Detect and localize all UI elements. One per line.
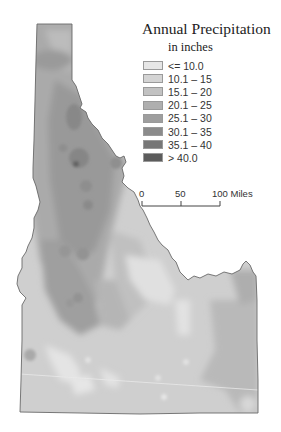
legend-item: 20.1 – 25 — [143, 99, 212, 112]
legend-swatch — [143, 74, 163, 83]
scale-tick-0: 0 — [139, 188, 144, 199]
legend-item: 30.1 – 35 — [143, 125, 212, 138]
map-subtitle: in inches — [168, 40, 213, 55]
legend-swatch — [143, 140, 163, 149]
legend-item: > 40.0 — [143, 151, 212, 164]
legend-label: > 40.0 — [168, 152, 198, 164]
scale-bar — [142, 201, 220, 206]
legend: <= 10.0 10.1 – 15 15.1 – 20 20.1 – 25 25… — [143, 59, 212, 165]
legend-swatch — [143, 153, 163, 162]
legend-swatch — [143, 101, 163, 110]
legend-swatch — [143, 61, 163, 70]
legend-swatch — [143, 127, 163, 136]
legend-item: 15.1 – 20 — [143, 85, 212, 98]
map-title: Annual Precipitation — [142, 20, 271, 38]
scale-tick-50: 50 — [175, 188, 186, 199]
legend-label: 15.1 – 20 — [168, 86, 212, 98]
legend-item: <= 10.0 — [143, 59, 212, 72]
legend-label: 25.1 – 30 — [168, 112, 212, 124]
precipitation-map — [0, 0, 281, 432]
legend-label: 10.1 – 15 — [168, 73, 212, 85]
legend-label: 20.1 – 25 — [168, 99, 212, 111]
legend-label: 30.1 – 35 — [168, 126, 212, 138]
scale-tick-100-miles: 100 Miles — [212, 188, 253, 199]
precipitation-zones — [0, 0, 281, 432]
legend-label: <= 10.0 — [168, 60, 204, 72]
legend-swatch — [143, 87, 163, 96]
legend-label: 35.1 – 40 — [168, 139, 212, 151]
legend-item: 10.1 – 15 — [143, 72, 212, 85]
legend-item: 35.1 – 40 — [143, 138, 212, 151]
legend-swatch — [143, 114, 163, 123]
legend-item: 25.1 – 30 — [143, 112, 212, 125]
